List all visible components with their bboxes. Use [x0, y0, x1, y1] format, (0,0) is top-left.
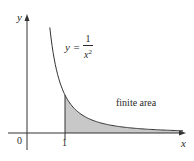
- origin-label: 0: [17, 135, 22, 146]
- equation-denominator: x2: [84, 47, 92, 60]
- equation-numerator: 1: [86, 34, 91, 44]
- fraction-bar: [83, 45, 93, 46]
- curve-equation: y = 1 x2: [65, 34, 93, 60]
- finite-area-label: finite area: [116, 97, 156, 108]
- x-tick-label-1: 1: [62, 137, 67, 148]
- improper-integral-diagram: y x 0 1 y = 1 x2 finite area: [0, 0, 194, 161]
- equation-fraction: 1 x2: [83, 34, 93, 60]
- plot-canvas: [0, 0, 194, 161]
- equation-denominator-exponent: 2: [89, 48, 93, 56]
- x-axis-label: x: [181, 137, 186, 149]
- y-axis-label: y: [17, 11, 22, 23]
- y-axis-arrow-icon: [25, 14, 30, 21]
- equation-lhs: y =: [65, 41, 80, 53]
